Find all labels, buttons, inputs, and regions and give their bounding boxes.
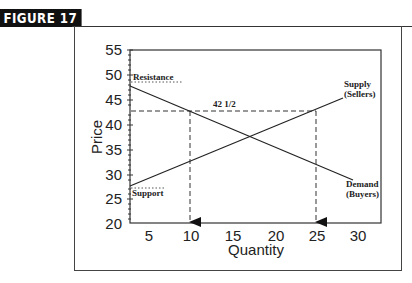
- y-tick-label: 55: [105, 41, 122, 58]
- supply-label: Supply: [344, 79, 372, 89]
- demand-sublabel: (Buyers): [346, 189, 379, 199]
- x-tick-label: 30: [350, 227, 367, 244]
- y-tick-label: 50: [105, 66, 122, 83]
- demand-label: Demand: [346, 179, 379, 189]
- y-axis-labels: 55 50 45 40 35 30 25 20: [105, 41, 122, 232]
- supply-demand-chart: 55 50 45 40 35 30 25 20 Price 5 10 15 20…: [0, 0, 412, 283]
- x-axis-title: Quantity: [228, 241, 284, 258]
- resistance-label: Resistance: [133, 72, 174, 82]
- x-tick-label: 25: [309, 227, 326, 244]
- x-tick-label: 10: [183, 227, 200, 244]
- price-level-label: 42 1/2: [213, 99, 236, 109]
- y-tick-label: 40: [105, 116, 122, 133]
- y-axis-title: Price: [88, 120, 105, 154]
- y-tick-label: 30: [105, 166, 122, 183]
- support-label: Support: [132, 188, 164, 198]
- x-tick-label: 5: [145, 227, 153, 244]
- y-tick-label: 25: [105, 190, 122, 207]
- y-tick-label: 45: [105, 91, 122, 108]
- y-tick-label: 20: [105, 215, 122, 232]
- demand-line: [130, 86, 353, 180]
- supply-sublabel: (Sellers): [344, 89, 376, 99]
- y-tick-label: 35: [105, 141, 122, 158]
